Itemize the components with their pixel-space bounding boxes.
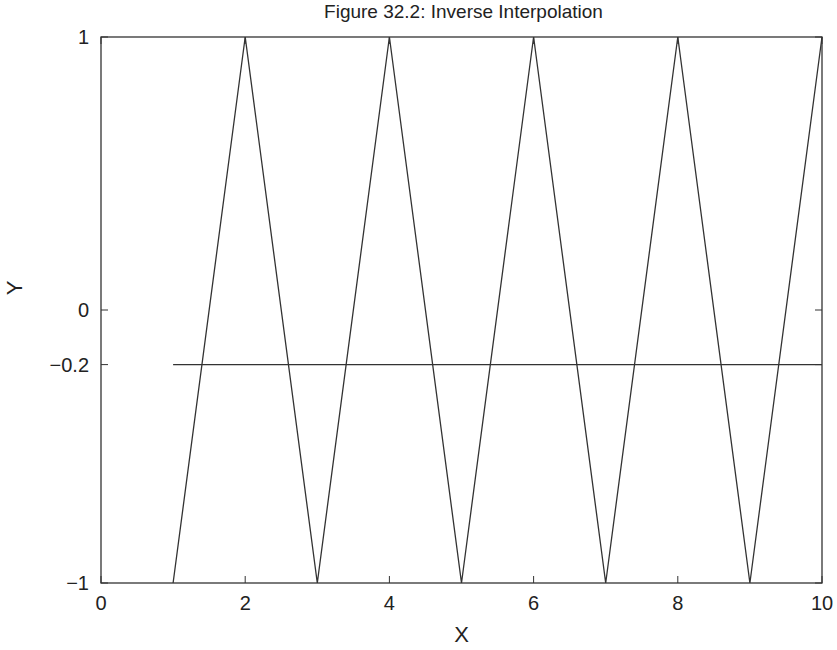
y-tick-label: −1 [66, 572, 89, 594]
x-axis-label: X [454, 622, 469, 647]
x-tick-label: 0 [95, 592, 106, 614]
series-line [173, 37, 822, 583]
y-axis-label: Y [2, 280, 27, 295]
x-tick-label: 4 [384, 592, 395, 614]
x-tick-label: 2 [240, 592, 251, 614]
y-tick-label: −0.2 [50, 354, 89, 376]
chart-plot-area: 0246810−1−0.201XY [0, 0, 837, 650]
x-tick-label: 10 [811, 592, 833, 614]
y-tick-label: 0 [78, 299, 89, 321]
y-tick-label: 1 [78, 26, 89, 48]
x-tick-label: 6 [528, 592, 539, 614]
x-tick-label: 8 [672, 592, 683, 614]
